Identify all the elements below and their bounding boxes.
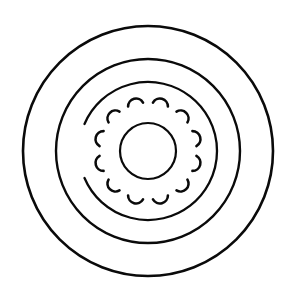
figure-root <box>0 0 293 295</box>
ring-diagram-svg <box>0 0 293 295</box>
stippled-core-group <box>119 123 177 180</box>
core-outline-circle <box>120 123 176 179</box>
